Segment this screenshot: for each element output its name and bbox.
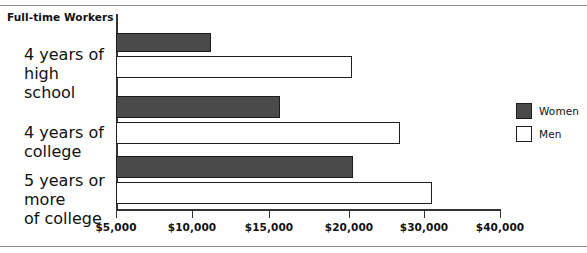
tick-mark-15000	[269, 210, 270, 218]
value-axis-line	[116, 209, 501, 211]
bar-men-college	[116, 122, 400, 144]
legend-label-men: Men	[539, 128, 561, 140]
tick-label-30000: $30,000	[400, 221, 449, 233]
legend-swatch-women-icon	[516, 103, 532, 119]
category-labels: 4 years of high school 4 years of colleg…	[0, 0, 110, 253]
tick-label-15000: $15,000	[245, 221, 294, 233]
category-label-college: 4 years of college	[24, 123, 110, 161]
bar-men-graduate	[116, 182, 432, 204]
legend-item-women: Women	[516, 102, 579, 119]
bar-women-graduate	[116, 156, 353, 178]
tick-label-40000: $40,000	[476, 221, 525, 233]
legend-swatch-men-icon	[516, 126, 532, 142]
category-label-graduate: 5 years or more of college	[24, 171, 110, 228]
tick-label-10000: $10,000	[168, 221, 217, 233]
tick-mark-40000	[500, 210, 501, 218]
tick-label-20000: $20,000	[325, 221, 374, 233]
tick-mark-20000	[349, 210, 350, 218]
chart-legend: Women Men	[516, 102, 579, 148]
tick-label-5000: $5,000	[95, 221, 136, 233]
tick-mark-10000	[192, 210, 193, 218]
bar-men-high-school	[116, 56, 352, 78]
category-label-high-school: 4 years of high school	[24, 45, 110, 102]
tick-mark-30000	[424, 210, 425, 218]
legend-label-women: Women	[539, 105, 579, 117]
tick-mark-5000	[116, 210, 117, 218]
legend-item-men: Men	[516, 125, 579, 142]
bar-women-high-school	[116, 33, 211, 52]
bar-women-college	[116, 96, 280, 118]
chart-page: Full-time Workers 4 years of high school…	[0, 0, 587, 253]
